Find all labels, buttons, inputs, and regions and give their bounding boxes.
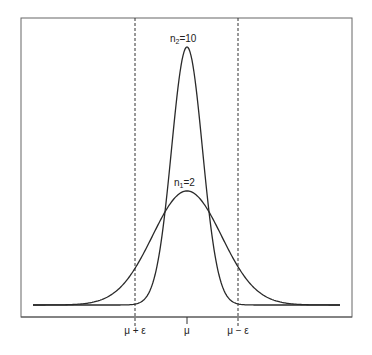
curve-n2 bbox=[33, 47, 340, 305]
curve-n1 bbox=[33, 191, 340, 305]
chart: n2=10 n1=2 μ + ε μ μ − ε bbox=[0, 0, 372, 355]
plot-frame bbox=[21, 18, 352, 317]
label-n2: n2=10 bbox=[170, 33, 197, 45]
tick-label-mu-plus-eps: μ + ε bbox=[124, 325, 146, 336]
tick-label-mu: μ bbox=[184, 325, 190, 336]
label-n1: n1=2 bbox=[174, 177, 195, 189]
tick-label-mu-minus-eps: μ − ε bbox=[227, 325, 249, 336]
